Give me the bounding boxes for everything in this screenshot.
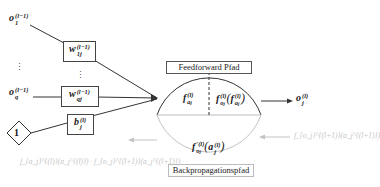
- backprop-label: Backpropagationspfad: [168, 164, 254, 177]
- bias-diamond: [7, 121, 31, 145]
- edge-o1-w1j: [30, 25, 64, 43]
- backprop-out-arrowhead-icon: [128, 138, 134, 143]
- input-arrowhead-icon: [151, 94, 158, 102]
- weight-box-wqj: w(l−1)qj: [61, 86, 99, 107]
- ellipsis-left: ⋮: [15, 62, 24, 72]
- backprop-out-expr: f_{a_j}^{(l)}(a_j^{(l)}) · f_{o_j}^{(l+1…: [20, 157, 180, 166]
- edge-bias-b: [31, 123, 67, 133]
- bias-input-label: 1: [14, 127, 19, 138]
- edge-w1j-neuron: [94, 60, 157, 98]
- neuron-bottom-func: f′(l)oj(a(l)j): [192, 139, 224, 155]
- output-arrowhead-icon: [287, 99, 293, 104]
- input-oq: o(l−1)q: [9, 86, 28, 100]
- backprop-in-arrowhead-icon: [259, 135, 265, 140]
- output-oj: o(l)j: [296, 92, 308, 106]
- input-o1: o(l−1)1: [9, 12, 28, 26]
- edge-wqj-neuron: [97, 97, 157, 98]
- bias-weight-box: b(l)j: [67, 114, 94, 135]
- edge-b-neuron: [92, 99, 157, 116]
- feedforward-label: Feedforward Pfad: [166, 61, 252, 74]
- neuron-right-func: f(l)oj(f(l)aj): [216, 91, 245, 107]
- backprop-in-expr: f_{o_j}^{(l+1)}(a_j^{(l+1)}): [294, 131, 380, 140]
- weight-box-w1j: w(l−1)1j: [63, 41, 96, 62]
- neuron-left-func: f(l)aj: [183, 91, 193, 106]
- ellipsis-mid: ⋮: [76, 70, 85, 80]
